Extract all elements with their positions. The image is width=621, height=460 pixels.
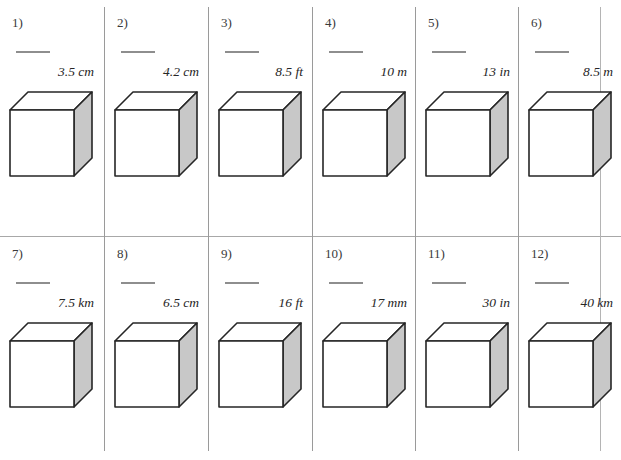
edge-length-label: 8.5 ft (213, 65, 309, 79)
item-number: 8) (117, 247, 128, 260)
answer-blank[interactable] (329, 282, 363, 284)
item-number: 2) (117, 16, 128, 29)
edge-length-label: 17 mm (317, 296, 413, 310)
answer-blank[interactable] (121, 282, 155, 284)
answer-blank[interactable] (121, 51, 155, 53)
answer-blank[interactable] (329, 51, 363, 53)
answer-blank[interactable] (225, 51, 259, 53)
item-number: 12) (531, 247, 548, 260)
cube-diagram (6, 313, 98, 417)
item-number: 7) (12, 247, 23, 260)
cube-diagram (111, 313, 203, 417)
worksheet-item-1[interactable]: 1) 3.5 cm (0, 7, 104, 235)
cube-diagram (319, 82, 411, 186)
cube-diagram (215, 82, 307, 186)
item-number: 4) (325, 16, 336, 29)
edge-length-label: 8.5 m (523, 65, 619, 79)
item-number: 9) (221, 247, 232, 260)
answer-blank[interactable] (432, 51, 466, 53)
worksheet-sheet: 1) 3.5 cm 2) 4.2 cm 3) 8.5 ft (0, 0, 621, 460)
cube-diagram (525, 82, 617, 186)
edge-length-label: 30 in (420, 296, 516, 310)
horizontal-divider (0, 236, 621, 237)
item-number: 11) (428, 247, 445, 260)
worksheet-item-2[interactable]: 2) 4.2 cm (105, 7, 209, 235)
cube-diagram (111, 82, 203, 186)
cube-diagram (525, 313, 617, 417)
cube-diagram (6, 82, 98, 186)
answer-blank[interactable] (225, 282, 259, 284)
answer-blank[interactable] (535, 51, 569, 53)
edge-length-label: 6.5 cm (109, 296, 205, 310)
cube-diagram (422, 313, 514, 417)
edge-length-label: 16 ft (213, 296, 309, 310)
item-number: 6) (531, 16, 542, 29)
item-number: 1) (12, 16, 23, 29)
worksheet-item-4[interactable]: 4) 10 m (313, 7, 417, 235)
cube-diagram (215, 313, 307, 417)
edge-length-label: 10 m (317, 65, 413, 79)
worksheet-item-3[interactable]: 3) 8.5 ft (209, 7, 313, 235)
edge-length-label: 4.2 cm (109, 65, 205, 79)
edge-length-label: 7.5 km (4, 296, 100, 310)
item-number: 10) (325, 247, 342, 260)
worksheet-item-5[interactable]: 5) 13 in (416, 7, 520, 235)
worksheet-item-9[interactable]: 9) 16 ft (209, 238, 313, 460)
cube-diagram (422, 82, 514, 186)
worksheet-title-cropped (0, 0, 621, 7)
cube-diagram (319, 313, 411, 417)
answer-blank[interactable] (16, 51, 50, 53)
worksheet-item-8[interactable]: 8) 6.5 cm (105, 238, 209, 460)
item-number: 5) (428, 16, 439, 29)
worksheet-item-7[interactable]: 7) 7.5 km (0, 238, 104, 460)
worksheet-item-11[interactable]: 11) 30 in (416, 238, 520, 460)
worksheet-item-6[interactable]: 6) 8.5 m (519, 7, 621, 235)
edge-length-label: 40 km (523, 296, 619, 310)
answer-blank[interactable] (535, 282, 569, 284)
item-number: 3) (221, 16, 232, 29)
worksheet-item-12[interactable]: 12) 40 km (519, 238, 621, 460)
worksheet-item-10[interactable]: 10) 17 mm (313, 238, 417, 460)
edge-length-label: 13 in (420, 65, 516, 79)
edge-length-label: 3.5 cm (4, 65, 100, 79)
answer-blank[interactable] (432, 282, 466, 284)
answer-blank[interactable] (16, 282, 50, 284)
